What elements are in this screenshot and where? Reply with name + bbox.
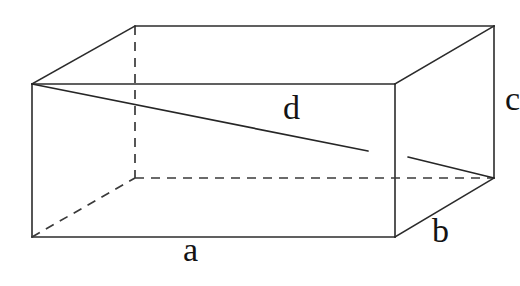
dimension-label-b: b [432, 214, 449, 248]
top-right-receding-edge [395, 26, 494, 84]
dimension-label-c: c [505, 82, 520, 116]
top-left-receding-edge [32, 26, 135, 84]
dimension-label-a: a [183, 233, 198, 267]
front-face-edges [32, 84, 395, 237]
receding-edges [32, 26, 494, 237]
bottom-left-receding-edge-hidden [32, 178, 135, 237]
back-face-edges [135, 26, 494, 178]
space-diagonal-segment-back [408, 157, 494, 178]
space-diagonal-segment-front [32, 84, 368, 151]
dimension-label-d: d [283, 91, 300, 125]
space-diagonal [32, 84, 494, 178]
